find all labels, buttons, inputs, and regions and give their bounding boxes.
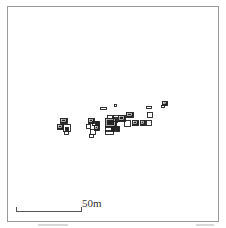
structure-footprint [115, 105, 117, 107]
structure-footprint [101, 108, 107, 110]
structure-footprint [148, 113, 153, 118]
footer-mark [196, 224, 214, 226]
structure-footprint [96, 122, 100, 126]
scale-bar [16, 207, 82, 212]
structure-footprint [66, 128, 69, 131]
scale-label: 50m [82, 197, 102, 209]
structure-footprint [90, 135, 94, 138]
structure-footprint [65, 132, 69, 135]
structure-footprint [147, 107, 152, 109]
structure-footprint [117, 127, 120, 132]
structure-footprint [87, 125, 91, 129]
footer-mark [38, 224, 68, 226]
site-plan-features [0, 0, 226, 228]
structure-footprint [147, 121, 152, 126]
structure-footprint [162, 106, 165, 108]
